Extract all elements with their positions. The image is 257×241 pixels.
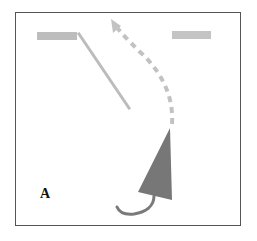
panel-label: A <box>40 187 50 201</box>
left-bar <box>37 32 77 40</box>
diagonal-line <box>79 34 129 108</box>
diagram-canvas <box>0 0 257 241</box>
dashed-arrow-path <box>116 26 172 124</box>
tail-curve <box>117 196 154 214</box>
right-bar <box>172 31 211 39</box>
triangle-shape <box>138 128 172 200</box>
